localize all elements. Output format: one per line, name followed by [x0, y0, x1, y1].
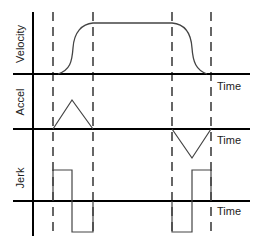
- accel-curve-negative: [172, 129, 211, 158]
- accel-time-label: Time: [217, 134, 241, 146]
- jerk-label: Jerk: [14, 167, 26, 188]
- accel-curve: [53, 100, 93, 129]
- velocity-time-label: Time: [217, 80, 241, 92]
- phase-dashed-lines: [53, 12, 211, 236]
- velocity-curve: [58, 23, 207, 74]
- accel-label: Accel: [14, 89, 26, 116]
- motion-profile-diagram: Velocity Accel Jerk Time Time Time: [0, 0, 264, 248]
- jerk-time-label: Time: [217, 205, 241, 217]
- velocity-label: Velocity: [14, 25, 26, 63]
